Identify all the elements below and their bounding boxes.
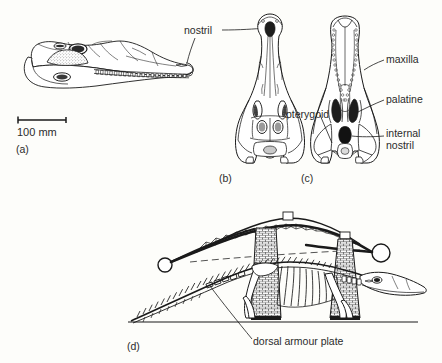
- skeleton-skull-orbit-pupil: [374, 278, 380, 282]
- posterior-lappet-right-b: [281, 157, 289, 163]
- figure-crocodilian-skull-and-skeleton: (a) 100 mm nostril: [0, 0, 442, 363]
- posterior-lappet-left-c: [321, 157, 329, 163]
- panel-label-b: (b): [219, 172, 232, 184]
- scale-bar-label: 100 mm: [17, 126, 57, 138]
- posterior-lappet-left-b: [246, 157, 254, 163]
- nostril-label: nostril: [184, 24, 212, 36]
- bridge-anchor-ball-left: [158, 258, 172, 272]
- supratemporal-left-shade: [259, 122, 265, 131]
- internal-nostril-label-line2: nostril: [386, 139, 414, 151]
- premaxilla-pit-left: [262, 20, 265, 23]
- pterygoid-label: pterygoid: [286, 108, 329, 120]
- maxilla-label: maxilla: [386, 53, 419, 65]
- condyle-center-ventral: [341, 148, 349, 155]
- internal-nostril-choana: [339, 127, 352, 144]
- internal-nostril-label-line1: internal: [386, 127, 420, 139]
- bridge-crown-block: [283, 212, 293, 220]
- external-naris-dorsal: [265, 22, 275, 37]
- panel-label-c: (c): [301, 172, 313, 184]
- premaxilla-pit-right: [276, 20, 279, 23]
- dorsal-armour-plate-label: dorsal armour plate: [253, 335, 344, 347]
- skeleton-skull-fenestra: [365, 280, 373, 282]
- bridge-pier-cap-right: [340, 232, 350, 239]
- panel-label-d: (d): [127, 340, 140, 352]
- occipital-condyle-dorsal: [264, 146, 277, 154]
- palatine-label: palatine: [386, 93, 423, 105]
- external-naris-lateral: [176, 64, 187, 66]
- panel-label-a: (a): [16, 143, 29, 155]
- supratemporal-right-shade: [275, 122, 281, 131]
- mandibular-fenestra-shade: [56, 75, 67, 80]
- posterior-lappet-right-c: [356, 157, 364, 163]
- bridge-anchor-ball-right: [372, 244, 390, 262]
